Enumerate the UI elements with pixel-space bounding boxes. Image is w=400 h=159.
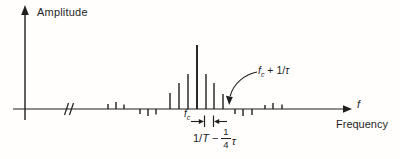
- fraction-numerator: 1: [221, 127, 230, 139]
- y-axis-label: Amplitude: [37, 7, 88, 18]
- line-spacing-marker: [191, 116, 227, 128]
- spacing-T: T: [202, 133, 209, 144]
- fraction-denominator: 4: [223, 139, 228, 150]
- carrier-subscript: c: [187, 114, 191, 121]
- x-axis-arrowhead-icon: [343, 105, 352, 113]
- x-axis-symbol: f: [357, 99, 360, 110]
- spacing-prefix: 1/: [193, 133, 202, 144]
- first-null-tau: τ: [285, 64, 289, 76]
- y-axis-arrowhead-icon: [21, 5, 29, 15]
- spacing-tau: τ: [232, 136, 236, 147]
- first-null-rest: + 1/: [264, 64, 285, 76]
- spacing-fraction: 1 4: [221, 127, 230, 149]
- first-null-subscript: c: [261, 71, 265, 78]
- line-spacing-label: 1/T− 1 4 τ: [193, 127, 236, 149]
- carrier-frequency-label: fc: [184, 109, 190, 119]
- x-axis-label: Frequency: [336, 119, 388, 130]
- figure-canvas: Amplitude f Frequency fc fc + 1/τ 1/T− 1…: [0, 0, 400, 159]
- first-null-arrow-icon: [226, 72, 257, 105]
- spectral-lines: [108, 45, 282, 116]
- first-null-label: fc + 1/τ: [258, 65, 289, 76]
- spacing-minus: −: [212, 133, 218, 144]
